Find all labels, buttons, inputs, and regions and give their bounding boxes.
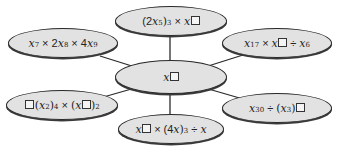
spider-diagram: (2x5)3 × x x7 × 2x8 × 4x9 x17 × x ÷ x6 x xyxy=(0,0,337,150)
missing-exponent-box[interactable] xyxy=(82,100,91,109)
center-missing-exponent-box[interactable] xyxy=(170,72,179,81)
expression-top-left: x7 × 2x8 × 4x9 xyxy=(28,37,97,50)
operator-multiply: × xyxy=(71,37,77,49)
operator-multiply: × xyxy=(42,37,48,49)
node-top-right: x17 × x ÷ x6 xyxy=(222,28,332,58)
expr-variable: x xyxy=(135,123,141,136)
expr-variable: x xyxy=(28,37,34,50)
node-top: (2x5)3 × x xyxy=(115,6,227,36)
expr-variable: x xyxy=(200,123,206,136)
expression-top: (2x5)3 × x xyxy=(142,15,199,28)
expression-bottom-left: (x2)4 × (x)2 xyxy=(24,99,99,112)
expr-variable: x xyxy=(299,37,305,50)
expr-variable: x xyxy=(184,15,190,28)
expression-bottom: x × (4x)3 ÷ x xyxy=(135,123,206,136)
expr-variable: x xyxy=(281,102,287,115)
missing-exponent-box[interactable] xyxy=(191,16,200,25)
expr-variable: x xyxy=(272,37,278,50)
node-bottom-left: (x2)4 × (x)2 xyxy=(6,90,118,120)
expr-variable: x xyxy=(75,99,81,112)
node-center: x xyxy=(115,60,227,94)
center-variable: x xyxy=(163,71,169,84)
expr-text: (2 xyxy=(142,15,152,27)
expr-text: ) xyxy=(291,102,295,115)
operator-divide: ÷ xyxy=(191,123,197,135)
expression-center: x xyxy=(163,71,179,84)
operator-multiply: × xyxy=(175,15,181,27)
operator-multiply: × xyxy=(262,37,268,49)
missing-coefficient-box[interactable] xyxy=(25,100,34,109)
operator-multiply: × xyxy=(62,99,68,111)
expression-top-right: x17 × x ÷ x6 xyxy=(244,37,310,50)
node-bottom: x × (4x)3 ÷ x xyxy=(118,114,224,144)
node-bottom-right: x30 ÷ (x3) xyxy=(222,93,332,123)
expr-text: (4 xyxy=(164,123,174,135)
operator-divide: ÷ xyxy=(267,102,273,114)
expression-bottom-right: x30 ÷ (x3) xyxy=(249,102,305,115)
missing-exponent-box[interactable] xyxy=(296,103,305,112)
expr-variable: x xyxy=(58,37,64,50)
operator-divide: ÷ xyxy=(290,37,296,49)
missing-exponent-box[interactable] xyxy=(278,38,287,47)
operator-multiply: × xyxy=(154,123,160,135)
missing-exponent-box[interactable] xyxy=(142,124,151,133)
node-top-left: x7 × 2x8 × 4x9 xyxy=(8,28,118,58)
